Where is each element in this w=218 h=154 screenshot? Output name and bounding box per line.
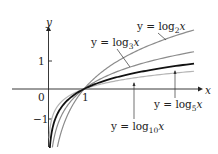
x-axis-label: x xyxy=(205,84,211,96)
log-functions-chart: x y 0 1 1 −1 y = log2x y = log3x y = log… xyxy=(0,0,218,154)
y-tick-label-minus-1: −1 xyxy=(33,113,48,125)
log2-pointer xyxy=(158,33,166,40)
x-tick-label-1: 1 xyxy=(82,91,89,103)
y-axis-label: y xyxy=(45,16,53,28)
origin-label: 0 xyxy=(38,91,45,103)
log2-label: y = log2x xyxy=(136,20,186,35)
y-tick-label-1: 1 xyxy=(38,55,45,67)
x-axis-arrow-icon xyxy=(198,87,203,92)
log5-arrow-icon xyxy=(174,70,177,74)
log5-label: y = log5x xyxy=(153,98,203,113)
log3-pointer xyxy=(117,49,130,67)
log10-label: y = log10x xyxy=(110,120,164,135)
log10-arrow-icon xyxy=(133,82,136,86)
log3-label: y = log3x xyxy=(90,36,140,51)
